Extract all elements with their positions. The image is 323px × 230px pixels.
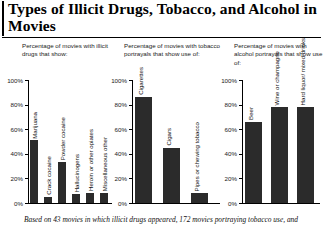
bar [191,193,208,203]
bar-label: Beer [247,107,254,120]
bar [245,122,262,203]
y-tick-label: 20% [2,175,23,182]
y-tick-mark [25,80,28,81]
bar-item: Cigarettes [135,80,152,203]
bar-item: Miscellaneous other [100,80,108,203]
bar-label: Heroin or other opiates [87,129,94,191]
y-tick-mark [239,203,242,204]
chart-panel-tobacco: Percentage of movies with tobacco portra… [114,42,224,212]
page-title: Types of Illicit Drugs, Tobacco, and Alc… [8,0,320,34]
plot-area: 0%20%40%60%80%100% MarijuanaCrack cocain… [2,42,114,212]
x-axis-line [28,203,112,204]
y-tick-label: 100% [2,77,23,84]
y-tick-label: 100% [106,77,127,84]
y-tick-mark [239,105,242,106]
bar-item: Hallucinogens [72,80,80,203]
y-tick-mark [25,203,28,204]
bar-item: Pipes or chewing tobacco [191,80,208,203]
bar [271,107,288,203]
bar [44,197,52,203]
y-tick-label: 60% [106,126,127,133]
chart-panel-alcohol: Percentage of movies with alcohol portra… [224,42,323,212]
chart-panel-illicit-drugs: Percentage of movies with illicit drugs … [2,42,114,212]
bar [297,107,314,203]
y-tick-label: 40% [216,150,237,157]
y-tick-mark [25,129,28,130]
y-tick-mark [25,154,28,155]
bar [86,193,94,203]
bar [135,97,152,203]
y-tick-mark [129,154,132,155]
y-tick-label: 60% [2,126,23,133]
bar-item: Hard liquor/ mixed drinks [297,80,314,203]
footnote: Based on 43 movies in which illicit drug… [24,215,316,224]
bar-item: Powder cocaine [58,80,66,203]
bar-group: CigarettesCigarsPipes or chewing tobacco [133,80,220,203]
y-tick-label: 0% [2,200,23,207]
bar-item: Heroin or other opiates [86,80,94,203]
title-bottom-rule [2,37,321,38]
x-axis-line [242,203,320,204]
bar-group: MarijuanaCrack cocainePowder cocaineHall… [29,80,112,203]
y-tick-label: 0% [216,200,237,207]
bar-item: Cigars [163,80,180,203]
bar-label: Marijuana [31,112,38,139]
plot-area: 0%20%40%60%80%100% CigarettesCigarsPipes… [114,42,224,212]
bar-label: Cigarettes [137,67,144,95]
y-tick-label: 40% [2,150,23,157]
bar [58,162,66,203]
y-tick-label: 60% [216,126,237,133]
plot-area: 0%20%40%60%80%100% BeerWine or champagne… [224,42,323,212]
y-tick-label: 40% [106,150,127,157]
bar-label: Crack cocaine [45,156,52,195]
y-tick-label: 20% [216,175,237,182]
y-tick-label: 80% [216,101,237,108]
y-tick-mark [239,129,242,130]
y-tick-label: 80% [106,101,127,108]
figure-root: Types of Illicit Drugs, Tobacco, and Alc… [0,0,323,230]
bar-label: Hard liquor/ mixed drinks [299,38,306,105]
y-tick-mark [239,178,242,179]
y-tick-mark [25,105,28,106]
bar-label: Wine or champagne [273,51,280,106]
bar-label: Cigars [165,128,172,146]
bar-label: Miscellaneous other [101,137,108,191]
y-tick-mark [129,129,132,130]
y-tick-mark [25,178,28,179]
bar-label: Pipes or chewing tobacco [193,122,200,191]
bar [30,140,38,203]
y-tick-label: 20% [106,175,127,182]
bar-item: Beer [245,80,262,203]
y-tick-mark [129,80,132,81]
bar [163,148,180,203]
bar-item: Marijuana [30,80,38,203]
bar-item: Wine or champagne [271,80,288,203]
y-tick-mark [129,203,132,204]
y-tick-mark [239,154,242,155]
y-tick-mark [129,105,132,106]
bar-label: Powder cocaine [59,117,66,160]
bar-item: Crack cocaine [44,80,52,203]
bar-group: BeerWine or champagneHard liquor/ mixed … [243,80,320,203]
bar-label: Hallucinogens [73,154,80,192]
title-left-rule [2,1,4,36]
y-tick-label: 0% [106,200,127,207]
y-tick-mark [129,178,132,179]
y-tick-label: 100% [216,77,237,84]
bar [72,194,80,203]
x-axis-line [132,203,220,204]
y-tick-label: 80% [2,101,23,108]
title-block: Types of Illicit Drugs, Tobacco, and Alc… [0,0,323,38]
y-tick-mark [239,80,242,81]
